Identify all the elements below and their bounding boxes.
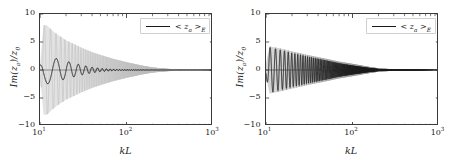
y-tick-label: 0 [17,64,35,73]
y-tick-label: 5 [17,36,35,45]
legend-label: < za >E [175,22,205,31]
x-tick-mantissa: 10 [258,128,268,137]
x-tick-exponent: 2 [354,126,358,132]
figure: Im(za)/z0 kL 1050−5−10 101102103 < za >E… [0,0,451,164]
legend-line-swatch [146,26,170,27]
y-tick-label: 10 [17,8,35,17]
x-tick-label: 103 [424,128,451,137]
y-tick-label: −5 [17,92,35,101]
plot-panel-right: Im(za)/z0 kL 1050−5−10 101102103 < za >E [226,0,451,164]
plot-panel-left: Im(za)/z0 kL 1050−5−10 101102103 < za >E [0,0,226,164]
x-tick-label: 101 [25,128,53,137]
x-tick-label: 101 [251,128,279,137]
x-tick-exponent: 3 [441,126,445,132]
x-tick-exponent: 2 [129,126,133,132]
legend-label: < za >E [401,22,431,31]
y-tick-label: 10 [243,8,261,17]
y-tick-label: 5 [243,36,261,45]
x-tick-exponent: 1 [42,126,46,132]
y-tick-label: −5 [243,92,261,101]
x-tick-exponent: 3 [215,126,219,132]
legend-line-swatch [372,26,396,27]
legend-left: < za >E [140,18,210,34]
x-axis-label-left: kL [39,145,212,156]
x-tick-exponent: 1 [268,126,272,132]
x-tick-mantissa: 10 [431,128,441,137]
x-axis-label-right: kL [265,145,438,156]
y-tick-label: 0 [243,64,261,73]
x-tick-label: 103 [198,128,226,137]
x-tick-label: 102 [112,128,140,137]
x-tick-mantissa: 10 [32,128,42,137]
x-tick-mantissa: 10 [119,128,129,137]
legend-right: < za >E [366,18,436,34]
x-tick-mantissa: 10 [205,128,215,137]
x-tick-label: 102 [337,128,365,137]
x-tick-mantissa: 10 [344,128,354,137]
